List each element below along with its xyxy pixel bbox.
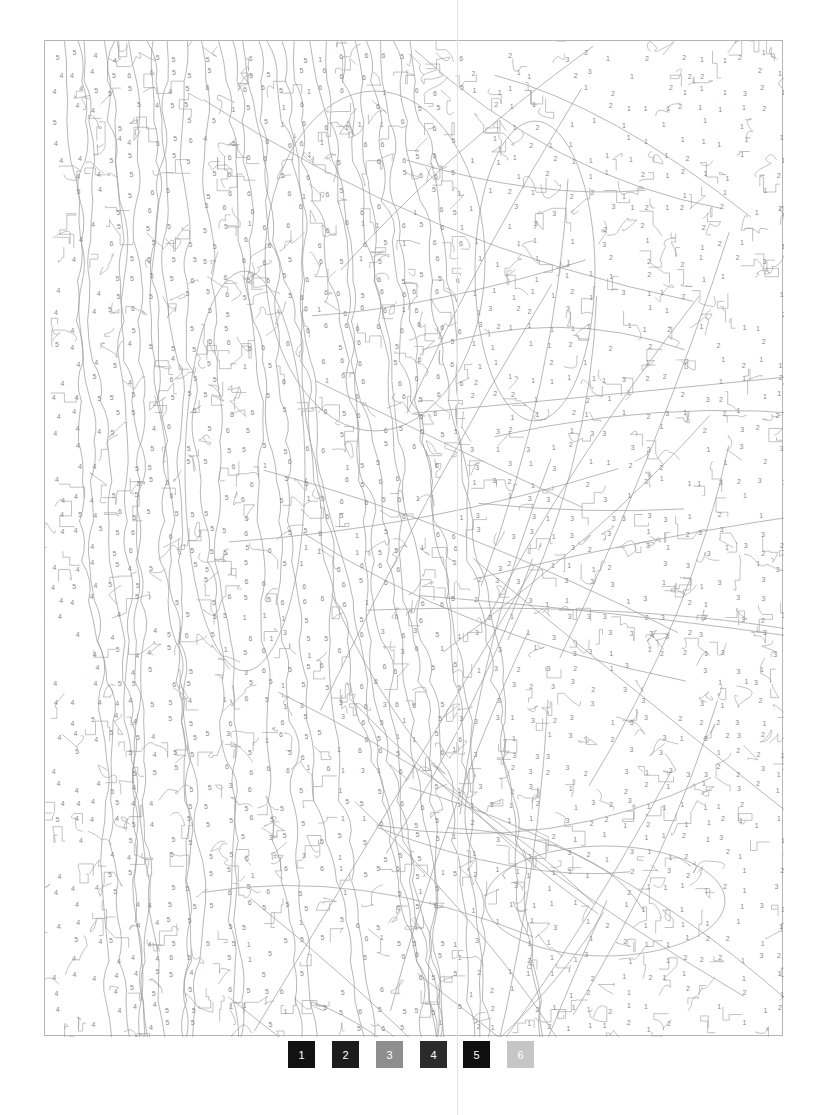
svg-text:6: 6 (440, 601, 444, 608)
svg-text:2: 2 (629, 462, 633, 469)
svg-text:3: 3 (703, 667, 707, 674)
svg-text:1: 1 (627, 134, 631, 141)
svg-text:4: 4 (77, 361, 81, 368)
svg-text:5: 5 (378, 1006, 382, 1013)
svg-text:3: 3 (760, 902, 764, 909)
svg-text:2: 2 (756, 780, 760, 787)
svg-text:2: 2 (718, 240, 722, 247)
svg-text:6: 6 (325, 191, 329, 198)
svg-text:1: 1 (571, 325, 575, 332)
svg-text:2: 2 (516, 305, 520, 312)
svg-text:4: 4 (57, 923, 61, 930)
svg-text:2: 2 (719, 396, 723, 403)
svg-text:1: 1 (627, 492, 631, 499)
svg-text:4: 4 (76, 631, 80, 638)
color-by-number-page: 5544555651666562321221121444565555556662… (0, 0, 827, 1115)
svg-text:3: 3 (704, 735, 708, 742)
svg-text:2: 2 (778, 1004, 782, 1011)
svg-text:2: 2 (680, 204, 684, 211)
svg-text:5: 5 (420, 221, 424, 228)
svg-text:1: 1 (510, 103, 514, 110)
svg-text:1: 1 (743, 867, 747, 874)
svg-text:2: 2 (586, 397, 590, 404)
svg-text:6: 6 (245, 578, 249, 585)
svg-text:2: 2 (726, 935, 730, 942)
svg-text:2: 2 (686, 155, 690, 162)
svg-text:2: 2 (631, 868, 635, 875)
svg-text:5: 5 (168, 901, 172, 908)
svg-text:5: 5 (376, 865, 380, 872)
svg-text:5: 5 (130, 171, 134, 178)
svg-text:1: 1 (608, 395, 612, 402)
svg-text:1: 1 (438, 1019, 442, 1026)
svg-text:5: 5 (285, 901, 289, 908)
svg-text:4: 4 (93, 651, 97, 658)
svg-text:1: 1 (605, 856, 609, 863)
svg-text:1: 1 (339, 787, 343, 794)
svg-text:5: 5 (193, 734, 197, 741)
svg-text:1: 1 (535, 276, 539, 283)
svg-text:5: 5 (305, 733, 309, 740)
svg-text:2: 2 (569, 341, 573, 348)
svg-text:6: 6 (356, 325, 360, 332)
svg-text:6: 6 (358, 360, 362, 367)
svg-text:5: 5 (187, 72, 191, 79)
svg-text:5: 5 (268, 362, 272, 369)
svg-text:3: 3 (603, 613, 607, 620)
svg-text:4: 4 (115, 972, 119, 979)
svg-text:5: 5 (167, 631, 171, 638)
svg-text:2: 2 (706, 935, 710, 942)
svg-text:6: 6 (166, 479, 170, 486)
svg-text:1: 1 (630, 73, 634, 80)
svg-text:3: 3 (532, 513, 536, 520)
svg-text:4: 4 (131, 954, 135, 961)
svg-text:5: 5 (128, 152, 132, 159)
svg-text:6: 6 (402, 222, 406, 229)
svg-text:3: 3 (664, 516, 668, 523)
svg-text:5: 5 (205, 730, 209, 737)
svg-text:4: 4 (90, 68, 94, 75)
svg-text:5: 5 (436, 835, 440, 842)
svg-text:1: 1 (602, 831, 606, 838)
svg-text:6: 6 (357, 412, 361, 419)
svg-text:2: 2 (682, 293, 686, 300)
legend-number-2: 2 (342, 1049, 348, 1061)
svg-text:1: 1 (666, 544, 670, 551)
svg-text:2: 2 (681, 391, 685, 398)
svg-text:5: 5 (132, 821, 136, 828)
svg-text:6: 6 (248, 786, 252, 793)
svg-text:2: 2 (493, 390, 497, 397)
svg-text:1: 1 (346, 464, 350, 471)
svg-text:4: 4 (127, 854, 131, 861)
svg-text:1: 1 (736, 918, 740, 925)
svg-text:6: 6 (395, 701, 399, 708)
svg-text:5: 5 (267, 596, 271, 603)
svg-text:3: 3 (602, 430, 606, 437)
svg-text:3: 3 (383, 701, 387, 708)
svg-text:2: 2 (758, 67, 762, 74)
svg-text:1: 1 (646, 237, 650, 244)
svg-text:1: 1 (265, 737, 269, 744)
svg-text:1: 1 (472, 479, 476, 486)
svg-text:1: 1 (745, 136, 749, 143)
svg-text:1: 1 (646, 359, 650, 366)
svg-text:2: 2 (660, 650, 664, 657)
svg-text:1: 1 (565, 597, 569, 604)
svg-text:3: 3 (496, 836, 500, 843)
svg-text:3: 3 (737, 785, 741, 792)
svg-text:1: 1 (755, 209, 759, 216)
svg-text:1: 1 (469, 205, 473, 212)
svg-text:1: 1 (473, 290, 477, 297)
svg-text:5: 5 (288, 256, 292, 263)
svg-text:5: 5 (284, 937, 288, 944)
svg-text:2: 2 (491, 1005, 495, 1012)
svg-text:6: 6 (419, 617, 423, 624)
svg-text:5: 5 (53, 119, 57, 126)
svg-text:5: 5 (169, 971, 173, 978)
svg-text:4: 4 (113, 57, 117, 64)
svg-text:1: 1 (776, 787, 780, 794)
svg-text:2: 2 (570, 193, 574, 200)
svg-text:1: 1 (471, 907, 475, 914)
svg-text:1: 1 (627, 598, 631, 605)
svg-text:5: 5 (146, 225, 150, 232)
